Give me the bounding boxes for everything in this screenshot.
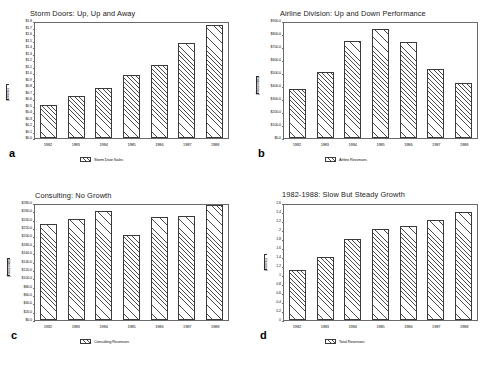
y-tick-label: $0.8 [25,85,32,89]
x-tick-label: 1986 [394,324,422,329]
panel-letter: d [260,329,267,341]
x-tick-label: 1987 [422,324,450,329]
y-tick-label: $100.0 [271,124,281,128]
bar-slot [63,23,91,138]
bar-series [284,23,477,138]
y-axis: 00.20.40.60.811.21.41.61.822.22.42.6 [267,204,281,321]
y-tick-label: $900.0 [271,20,281,24]
y-tick-label: $0.7 [25,92,32,96]
panel-letter: a [9,147,15,159]
legend-swatch-icon [325,339,336,344]
y-tick-label: $500.0 [271,72,281,76]
y-tick-label: 0.4 [276,301,281,305]
bar-slot [449,205,477,320]
chart-title: Airline Division: Up and Down Performanc… [280,9,426,18]
y-tick-label: $600.0 [271,59,281,63]
y-tick-label: $800.0 [271,33,281,37]
y-tick-label: $0.0 [274,137,281,141]
x-tick-label: 1988 [450,324,478,329]
y-tick-mark [33,321,35,322]
x-tick-label: 1984 [90,324,118,329]
x-tick-label: 1983 [311,142,339,147]
y-tick-label: $160.0 [22,252,32,256]
x-tick-label: 1985 [118,142,146,147]
y-tick-label: $0.9 [25,79,32,83]
y-tick-label: $1.5 [25,40,32,44]
chart-title: Consulting: No Growth [35,191,111,200]
bar-slot [339,23,367,138]
y-tick-label: 2.2 [276,220,281,224]
bar [123,75,140,138]
bar-slot [90,205,118,320]
x-tick-label: 1988 [201,324,229,329]
panel-d: 1982-1988: Slow But Steady Growth (Milli… [249,184,498,368]
bar [400,226,417,320]
chart-title: Storm Doors: Up, Up and Away [30,9,135,18]
y-tick-label: $140.0 [22,261,32,265]
y-tick-label: $1.2 [25,59,32,63]
y-tick-label: $60.0 [24,294,33,298]
y-tick-label: $240.0 [22,219,32,223]
x-tick-label: 1985 [367,324,395,329]
bar-slot [35,205,63,320]
bar-slot [173,23,201,138]
bar [427,220,444,320]
bar-slot [145,23,173,138]
y-tick-label: $0.4 [25,111,32,115]
bar-slot [284,205,312,320]
legend-swatch-icon [325,157,336,162]
y-tick-label: 1.6 [276,247,281,251]
bar-slot [200,205,228,320]
y-tick-label: 2.6 [276,202,281,206]
bar [289,270,306,320]
x-axis: 1982198319841985198619871988 [34,324,229,329]
y-tick-label: $0.0 [25,137,32,141]
bar [178,216,195,320]
bar [317,257,334,320]
x-axis: 1982198319841985198619871988 [283,142,478,147]
bar-slot [394,23,422,138]
bar [178,43,195,138]
y-tick-mark [33,139,35,140]
plot-area [283,204,478,321]
bar-slot [200,23,228,138]
y-tick-label: $280.0 [22,202,32,206]
legend: Airline Revenues [325,157,367,162]
y-tick-label: 0.6 [276,292,281,296]
y-tick-label: $0.2 [25,124,32,128]
bar [344,239,361,320]
bar-slot [90,23,118,138]
y-tick-label: $120.0 [22,269,32,273]
x-tick-label: 1987 [173,142,201,147]
y-tick-label: $200.0 [22,236,32,240]
y-tick-label: $0.0 [25,319,32,323]
bar-slot [312,23,340,138]
plot-area [283,22,478,139]
bar-series [35,205,228,320]
y-tick-label: $700.0 [271,46,281,50]
x-tick-label: 1986 [145,142,173,147]
y-tick-label: $1.6 [25,33,32,37]
panel-c: Consulting: No Growth (Thousands) $0.0$2… [0,184,249,368]
panel-b: Airline Division: Up and Down Performanc… [249,0,498,184]
x-tick-label: 1986 [145,324,173,329]
legend-swatch-icon [80,157,91,162]
y-tick-label: $1.8 [25,20,32,24]
bar [455,212,472,320]
x-tick-label: 1986 [394,142,422,147]
y-axis: $0.0$0.1$0.2$0.3$0.4$0.5$0.6$0.7$0.8$0.9… [10,22,32,139]
y-tick-label: $20.0 [24,311,33,315]
bar [68,219,85,320]
x-axis: 1982198319841985198619871988 [283,324,478,329]
y-tick-label: $0.3 [25,118,32,122]
bar-slot [63,205,91,320]
y-tick-label: 0.2 [276,310,281,314]
x-tick-label: 1988 [201,142,229,147]
y-tick-label: 2.4 [276,211,281,215]
bar [151,217,168,320]
bar [151,65,168,138]
x-tick-label: 1983 [62,142,90,147]
y-tick-label: $0.5 [25,105,32,109]
legend-label: Airline Revenues [339,157,367,162]
bar-slot [284,23,312,138]
